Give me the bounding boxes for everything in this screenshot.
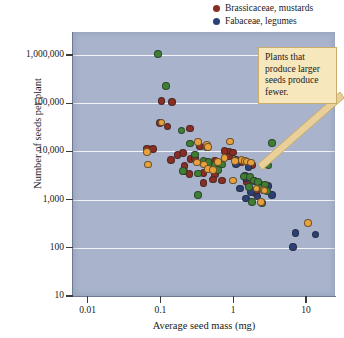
legend: Brassicaceae, mustards Fabaceae, legumes — [213, 2, 344, 28]
y-axis-tick — [66, 54, 73, 55]
data-point — [194, 191, 202, 199]
data-point — [179, 167, 187, 175]
y-axis-tick — [66, 295, 73, 296]
y-axis-tick-label: 1,000 — [0, 195, 64, 205]
data-point — [194, 170, 202, 178]
data-point — [186, 125, 194, 133]
y-axis-tick — [66, 199, 73, 200]
data-point — [245, 183, 253, 191]
annotation-callout: Plants that produce larger seeds produce… — [258, 47, 337, 104]
data-point — [226, 138, 234, 146]
y-axis-line — [72, 32, 73, 297]
data-point — [162, 82, 170, 90]
x-axis-tick — [233, 296, 234, 303]
x-axis-line — [72, 296, 336, 297]
x-axis-tick-label: 0.01 — [63, 305, 113, 315]
data-point — [257, 198, 265, 206]
data-point — [248, 198, 256, 206]
y-axis-tick — [66, 103, 73, 104]
legend-dot-icon — [213, 5, 220, 12]
x-axis-tick-label: 1 — [208, 305, 258, 315]
legend-item-brassicaceae: Brassicaceae, mustards — [213, 2, 344, 14]
data-point — [167, 156, 175, 164]
data-point — [144, 161, 152, 169]
data-point — [247, 159, 255, 167]
data-point — [186, 140, 194, 148]
data-point — [292, 229, 300, 237]
data-point — [265, 162, 273, 170]
y-axis-tick — [66, 247, 73, 248]
x-axis-tick — [305, 296, 306, 303]
data-point — [154, 50, 162, 58]
y-axis-tick-label: 100,000 — [0, 98, 64, 108]
legend-dot-icon — [213, 18, 220, 25]
data-point — [289, 243, 297, 251]
data-point — [143, 148, 151, 156]
gridline — [73, 151, 335, 152]
data-point — [221, 154, 229, 162]
data-point — [268, 139, 276, 147]
y-axis-tick-label: 10,000 — [0, 146, 64, 156]
y-axis-tick — [66, 151, 73, 152]
data-point — [194, 138, 202, 146]
data-point — [218, 177, 226, 185]
data-point — [209, 176, 217, 184]
data-point — [229, 177, 237, 185]
legend-item-label: Brassicaceae, mustards — [225, 3, 313, 14]
data-point — [204, 143, 212, 151]
x-axis-tick-label: 0.1 — [135, 305, 185, 315]
data-point — [221, 147, 229, 155]
data-point — [312, 231, 320, 239]
data-point — [200, 179, 208, 187]
data-point — [178, 127, 186, 135]
legend-item-label: Fabaceae, legumes — [225, 16, 297, 27]
gridline — [73, 200, 335, 201]
data-point — [304, 219, 312, 227]
x-axis-tick — [87, 296, 88, 303]
data-point — [236, 185, 244, 193]
x-axis-tick — [160, 296, 161, 303]
legend-item-fabaceae: Fabaceae, legumes — [213, 15, 344, 27]
y-axis-tick-label: 1,000,000 — [0, 50, 64, 60]
x-axis-title: Average seed mass (mg) — [73, 320, 335, 331]
y-axis-tick-label: 100 — [0, 243, 64, 253]
data-point — [168, 98, 176, 106]
x-axis-tick-label: 10 — [281, 305, 331, 315]
data-point — [164, 123, 172, 131]
y-axis-tick-label: 10 — [0, 291, 64, 301]
data-point — [209, 166, 217, 174]
